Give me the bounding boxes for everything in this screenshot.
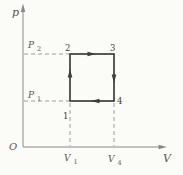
volume-tick-v4-sub: 4 bbox=[117, 159, 121, 167]
origin-label: O bbox=[9, 141, 17, 152]
figure-background bbox=[0, 0, 183, 175]
pressure-tick-p2-sub: 2 bbox=[37, 45, 41, 53]
volume-tick-v1-base: V bbox=[64, 153, 72, 163]
pressure-tick-p1-sub: 1 bbox=[37, 95, 41, 103]
volume-tick-v1-sub: 1 bbox=[73, 158, 77, 166]
pv-diagram-figure: p V O P 2 P 1 V 1 V 4 1 2 3 4 bbox=[0, 0, 183, 175]
volume-tick-v4-base: V bbox=[108, 154, 116, 164]
point-label-2: 2 bbox=[65, 43, 70, 53]
v-axis-label: V bbox=[163, 152, 172, 165]
pv-diagram-canvas: p V O P 2 P 1 V 1 V 4 1 2 3 4 bbox=[0, 0, 183, 175]
point-label-3: 3 bbox=[110, 43, 115, 53]
point-label-1: 1 bbox=[63, 111, 68, 121]
p-axis-label: p bbox=[12, 6, 19, 19]
pressure-tick-p2-base: P bbox=[27, 40, 35, 50]
pressure-tick-p1-base: P bbox=[27, 90, 35, 100]
point-label-4: 4 bbox=[117, 96, 122, 106]
